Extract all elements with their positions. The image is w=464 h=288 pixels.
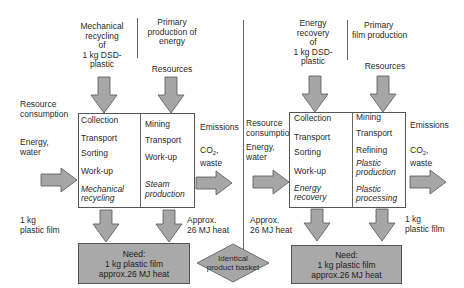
down-arrow-icon [369, 209, 395, 241]
co-suffix: , [426, 145, 428, 155]
process-step: processing [356, 194, 397, 204]
emissions-label: Emissions [410, 121, 449, 131]
process-step: production [145, 190, 185, 200]
emissions-label: Emissions [200, 123, 239, 133]
process-step: Transport [81, 134, 117, 144]
label-line: water [246, 153, 275, 163]
down-arrow-icon [93, 210, 119, 242]
waste-label: waste [410, 159, 432, 169]
right-arrow-icon [253, 170, 289, 194]
heading-line: plastic [288, 57, 338, 67]
need-line: 1 kg plastic film [317, 260, 375, 270]
emissions-detail: CO2, waste [410, 146, 432, 168]
right-heading-divider [347, 20, 348, 60]
resources-label: Resources [145, 65, 199, 75]
heading-line: film production [352, 31, 407, 41]
scenario-divider-line [243, 20, 244, 250]
label-line: plastic film [405, 225, 445, 235]
down-arrow-icon [370, 76, 396, 112]
process-step: Work-up [294, 167, 326, 177]
co-text: CO [200, 145, 213, 155]
need-box-left: Need: 1 kg plastic film approx.26 MJ hea… [78, 243, 190, 284]
resources-label: Resources [358, 62, 412, 72]
down-arrow-icon [302, 76, 328, 112]
label-line: 26 MJ heat [250, 226, 292, 236]
right-arrow-icon [41, 168, 77, 192]
process-step: Collection [294, 114, 331, 124]
co-text: CO [410, 145, 423, 155]
process-step: Mining [356, 113, 381, 123]
left-heading-divider [137, 18, 138, 58]
process-step: recycling [81, 194, 115, 204]
label-line: consumption [246, 129, 294, 139]
down-arrow-icon [158, 77, 184, 113]
need-line: 1 kg plastic film [105, 259, 163, 269]
process-step: Sorting [81, 149, 108, 159]
label-line: 26 MJ heat [187, 226, 229, 236]
process-step: Work-up [81, 167, 113, 177]
right-arrow-icon [196, 171, 232, 195]
need-line: Need: [123, 249, 146, 259]
resource-consumption-label: Resource consumption [20, 100, 68, 119]
output-heat-label: Approx. 26 MJ heat [250, 216, 292, 235]
process-step: Transport [356, 129, 392, 139]
output-heat-label: Approx. 26 MJ heat [187, 216, 229, 235]
input-label: Energy, water [246, 143, 275, 162]
need-line: Need: [335, 250, 358, 260]
label-line: water [20, 148, 49, 158]
right-arrow-icon [410, 170, 446, 194]
down-arrow-icon [304, 209, 330, 241]
waste-label: waste [200, 159, 222, 169]
heading-line: plastic [78, 60, 126, 70]
process-step: production [356, 168, 396, 178]
process-step: Refining [356, 146, 387, 156]
label-line: plastic film [20, 226, 60, 236]
process-box-divider [352, 113, 353, 207]
co2-label: CO2, [410, 146, 432, 159]
heading-primary-film: Primary film production [352, 21, 407, 40]
process-step: Mining [145, 120, 170, 130]
process-step: Transport [145, 136, 181, 146]
heading-mechanical-recycling: Mechanical recycling of 1 kg DSD- plasti… [78, 22, 126, 70]
process-step: recovery [294, 193, 327, 203]
down-arrow-icon [91, 77, 117, 113]
process-step: Sorting [294, 148, 321, 158]
output-plastic-film-label: 1 kg plastic film [405, 215, 445, 234]
output-plastic-film-label: 1 kg plastic film [20, 216, 60, 235]
down-arrow-icon [156, 210, 182, 242]
diamond-label: Identical product basket [197, 254, 269, 272]
need-line: approx.26 MJ heat [311, 270, 381, 280]
heading-energy-recovery: Energy recovery of 1 kg DSD- plastic [288, 19, 338, 67]
heading-primary-energy: Primary production of energy [140, 18, 204, 47]
process-step: Collection [81, 116, 118, 126]
process-step: Transport [294, 133, 330, 143]
heading-line: energy [140, 37, 204, 47]
diamond-line: Identical [197, 254, 269, 263]
diamond-line: product basket [197, 263, 269, 272]
need-box-right: Need: 1 kg plastic film approx.26 MJ hea… [291, 245, 402, 284]
co-suffix: , [216, 145, 218, 155]
co2-label: CO2, [200, 146, 222, 159]
emissions-detail: CO2, waste [200, 146, 222, 168]
input-label: Energy, water [20, 138, 49, 157]
resource-consumption-label: Resource consumption [246, 119, 294, 138]
process-box-divider [140, 114, 141, 207]
process-step: Work-up [145, 153, 177, 163]
need-line: approx.26 MJ heat [99, 269, 169, 279]
label-line: consumption [20, 110, 68, 120]
